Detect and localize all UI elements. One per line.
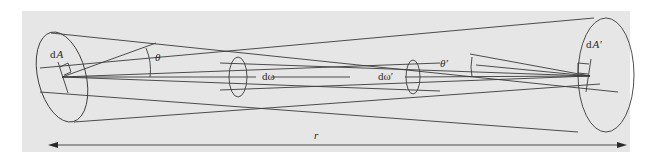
- label-solid-angle-right: dω′: [378, 70, 393, 82]
- diagram-background: [22, 11, 630, 152]
- label-theta-prime: θ′: [440, 57, 448, 69]
- label-distance: r: [314, 129, 319, 141]
- label-solid-angle-left: dω: [262, 70, 275, 82]
- label-area-right: dA′: [586, 38, 602, 50]
- label-theta: θ: [155, 51, 161, 63]
- radiation-geometry-diagram: dA dA′ θ θ′ dω dω′ r: [0, 0, 659, 158]
- label-area-left: dA: [50, 48, 64, 60]
